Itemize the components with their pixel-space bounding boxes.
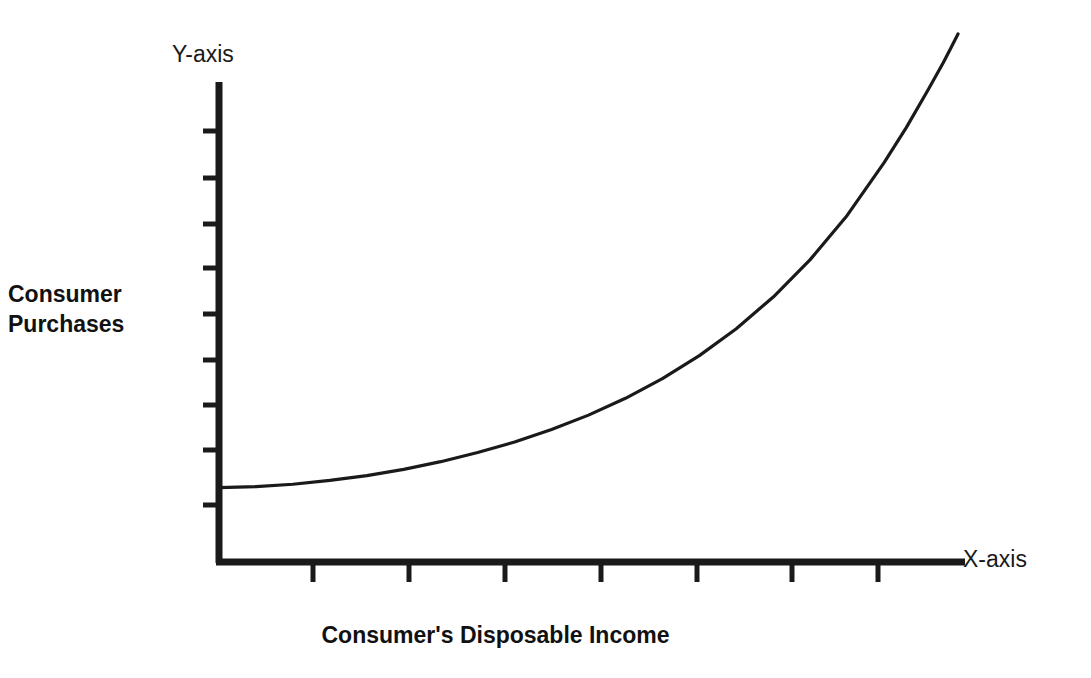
x-axis-end-label: X-axis (963, 548, 1027, 571)
chart-figure: Y-axis X-axis Consumer Purchases Consume… (0, 0, 1091, 678)
consumption-curve (219, 34, 958, 488)
x-axis-title: Consumer's Disposable Income (0, 622, 1091, 650)
y-axis-end-label: Y-axis (172, 43, 234, 66)
y-axis-title: Consumer Purchases (8, 279, 188, 340)
